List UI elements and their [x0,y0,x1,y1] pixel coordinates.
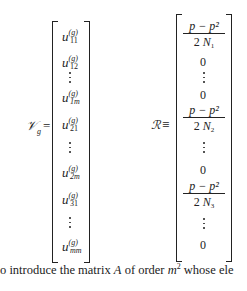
entry-u1m: u(g)1m [62,91,78,104]
left-bracket [176,14,182,262]
vdots [69,142,71,156]
vdots [203,72,205,86]
body-text-line: o introduce the matrix A of order m2 who… [0,262,233,278]
frac-n3: p − p² 2 N3 [183,180,225,208]
entry-u11: u(g)11 [62,30,78,43]
entry-umm: u(g)mm [62,240,78,253]
equiv-sign: ≡ [162,117,169,133]
vdots [69,72,71,86]
zero-entry: 0 [200,88,206,103]
v-g-symbol: 𝒱g [26,118,41,134]
frac-n1: p − p² 2 N1 [183,20,225,48]
r-symbol: ℛ [151,118,161,132]
vdots [203,218,205,232]
entry-u12: u(g)12 [62,56,78,69]
vdots [69,217,71,231]
equals-sign: = [43,118,50,134]
zero-entry: 0 [200,55,206,70]
entry-u21: u(g)21 [62,118,78,131]
zero-entry: 0 [200,163,206,178]
entry-u2m: u(g)2m [62,166,78,179]
right-bracket [84,21,90,263]
vdots [203,142,205,156]
frac-n2: p − p² 2 N2 [183,104,225,132]
zero-entry: 0 [200,238,206,253]
right-bracket [226,14,232,262]
left-bracket [52,21,58,263]
entry-u31: u(g)31 [62,193,78,206]
